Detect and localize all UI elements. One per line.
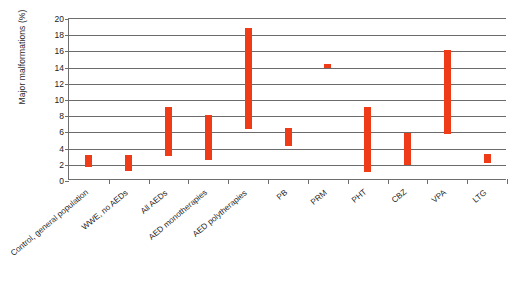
range-bar — [444, 50, 451, 134]
x-tick-mark — [308, 179, 309, 184]
y-tick-mark — [65, 100, 69, 101]
gridline — [69, 68, 506, 69]
x-tick-label: PB — [275, 188, 289, 202]
y-tick-mark — [65, 132, 69, 133]
range-bar — [324, 64, 331, 68]
gridline — [69, 51, 506, 52]
y-axis-title: Major malformations (%) — [17, 0, 27, 117]
gridline — [69, 149, 506, 150]
y-tick-label: 4 — [59, 144, 64, 154]
x-tick-label: Control, general population — [9, 188, 90, 258]
x-tick-label: VPA — [430, 188, 448, 205]
x-tick-mark — [149, 179, 150, 184]
x-tick-label: All AEDs — [139, 188, 169, 215]
plot-area: 02468101214161820 — [68, 18, 506, 180]
range-bar — [484, 154, 491, 163]
y-tick-mark — [65, 35, 69, 36]
range-bar — [285, 128, 292, 146]
x-tick-label: PHT — [350, 188, 368, 205]
x-tick-mark — [507, 179, 508, 184]
gridline — [69, 165, 506, 166]
x-tick-mark — [188, 179, 189, 184]
range-bar — [85, 155, 92, 167]
y-tick-mark — [65, 19, 69, 20]
x-tick-mark — [109, 179, 110, 184]
y-tick-label: 14 — [55, 63, 64, 73]
chart-container: Major malformations (%) 0246810121416182… — [0, 0, 527, 287]
x-tick-mark — [268, 179, 269, 184]
y-tick-mark — [65, 51, 69, 52]
y-tick-label: 2 — [59, 160, 64, 170]
range-bar — [165, 107, 172, 156]
x-tick-mark — [228, 179, 229, 184]
y-tick-label: 20 — [55, 14, 64, 24]
y-tick-mark — [65, 165, 69, 166]
y-tick-mark — [65, 149, 69, 150]
y-tick-label: 6 — [59, 127, 64, 137]
y-tick-label: 18 — [55, 30, 64, 40]
gridline — [69, 35, 506, 36]
x-tick-label: CBZ — [390, 188, 408, 205]
x-tick-mark — [427, 179, 428, 184]
gridline — [69, 100, 506, 101]
x-tick-label: PRM — [309, 188, 329, 207]
y-tick-label: 10 — [55, 95, 64, 105]
y-tick-label: 0 — [59, 176, 64, 186]
y-tick-mark — [65, 68, 69, 69]
range-bar — [125, 155, 132, 171]
x-tick-mark — [388, 179, 389, 184]
x-tick-label: LTG — [471, 188, 489, 205]
gridline — [69, 116, 506, 117]
range-bar — [245, 28, 252, 129]
y-tick-label: 8 — [59, 111, 64, 121]
y-tick-mark — [65, 181, 69, 182]
y-tick-mark — [65, 116, 69, 117]
gridline — [69, 84, 506, 85]
y-tick-label: 16 — [55, 46, 64, 56]
range-bar — [205, 115, 212, 160]
x-tick-mark — [348, 179, 349, 184]
y-tick-mark — [65, 84, 69, 85]
y-tick-label: 12 — [55, 79, 64, 89]
x-tick-mark — [467, 179, 468, 184]
range-bar — [404, 133, 411, 165]
range-bar — [364, 107, 371, 172]
